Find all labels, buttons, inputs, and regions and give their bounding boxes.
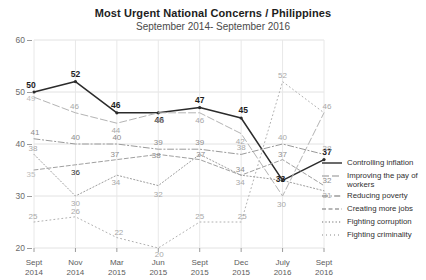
legend-label: Controlling inflation [347,158,413,167]
x-tick-label: July2016 [274,258,292,277]
x-tick-label: Mar2015 [108,258,126,277]
legend-item[interactable]: Reducing poverty [322,191,426,202]
x-tick-label: Jun2015 [149,258,167,277]
y-tick-label: 50 [16,87,25,97]
chart-container: Most Urgent National Concerns / Philippi… [0,0,426,280]
legend-item[interactable]: Creating more jobs [322,204,426,215]
series-line [34,82,324,181]
legend-item[interactable]: Improving the pay of workers [322,171,426,189]
series-line [34,82,324,248]
y-tick-label: 20 [16,243,25,253]
chart-legend: Controlling inflationImproving the pay o… [322,158,426,243]
plot-svg [34,40,324,248]
y-axis: 2030405060 [0,40,34,248]
legend-line-swatch-icon [322,217,342,227]
legend-item[interactable]: Controlling inflation [322,158,426,169]
x-axis: Sept2014Nov2014Mar2015Jun2015Sept2015Dec… [34,250,324,278]
series-point [198,106,201,109]
legend-item[interactable]: Fighting criminality [322,230,426,241]
legend-label: Fighting criminality [347,230,412,239]
y-tick-label: 30 [16,191,25,201]
legend-line-swatch-icon [322,171,342,181]
x-tick-label: Sept2016 [315,258,333,277]
legend-item[interactable]: Fighting corruption [322,217,426,228]
legend-label: Reducing poverty [347,191,408,200]
series-point [240,116,243,119]
legend-line-swatch-icon [322,204,342,214]
x-tick-label: Sept2014 [25,258,43,277]
series-point [115,111,118,114]
series-line [34,139,324,155]
chart-subtitle: September 2014- September 2016 [0,21,426,32]
y-tick-label: 40 [16,139,25,149]
legend-line-swatch-icon [322,191,342,201]
y-tick-label: 60 [16,35,25,45]
x-tick-label: Dec2015 [232,258,250,277]
x-tick-label: Nov2014 [67,258,85,277]
legend-label: Creating more jobs [347,204,413,213]
legend-label: Fighting corruption [347,217,412,226]
legend-label: Improving the pay of workers [347,171,426,189]
series-point [74,80,77,83]
legend-line-swatch-icon [322,230,342,240]
chart-title: Most Urgent National Concerns / Philippi… [0,7,426,19]
series-point [32,90,35,93]
plot-area: 5052464647453337494644464642304641404039… [34,40,324,248]
series-line [34,97,324,196]
legend-line-swatch-icon [322,158,342,168]
x-tick-label: Sept2015 [191,258,209,277]
